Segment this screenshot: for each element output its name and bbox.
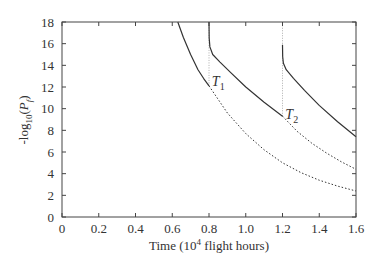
plot-frame: [62, 22, 356, 217]
series-2-dotted: [209, 86, 356, 191]
series-1-solid: [178, 22, 209, 86]
annotation-t1: T1: [212, 74, 225, 92]
y-tick-label: 0: [48, 210, 55, 225]
y-axis-ticks: 024681012141618: [41, 15, 356, 225]
x-tick-label: 1.0: [238, 221, 254, 236]
x-tick-label: 0.8: [201, 221, 217, 236]
x-tick-label: 1.6: [348, 221, 365, 236]
x-tick-label: 1.4: [311, 221, 328, 236]
y-axis-label: -log10(Pf): [16, 95, 34, 144]
y-tick-label: 12: [41, 80, 54, 95]
y-tick-label: 10: [41, 101, 54, 116]
x-tick-label: 0.4: [127, 221, 144, 236]
y-tick-label: 2: [48, 188, 55, 203]
y-tick-label: 16: [41, 36, 55, 51]
x-tick-label: 0.6: [164, 221, 181, 236]
y-tick-label: 6: [48, 145, 55, 160]
x-tick-label: 1.2: [274, 221, 290, 236]
y-tick-label: 14: [41, 58, 55, 73]
y-tick-label: 4: [48, 166, 55, 181]
x-axis-ticks: 00.20.40.60.81.01.21.41.6: [59, 22, 365, 236]
annotation-t2: T2: [285, 107, 298, 125]
annotations: T1T2: [212, 74, 298, 126]
series-3-solid: [209, 22, 283, 116]
x-tick-label: 0.2: [91, 221, 107, 236]
x-axis-label: Time (104 flight hours): [149, 237, 269, 253]
y-tick-label: 18: [41, 15, 54, 30]
x-tick-label: 0: [59, 221, 66, 236]
y-tick-label: 8: [48, 123, 55, 138]
plot-area: [178, 22, 356, 191]
chart: 00.20.40.60.81.01.21.41.6 02468101214161…: [0, 0, 376, 264]
